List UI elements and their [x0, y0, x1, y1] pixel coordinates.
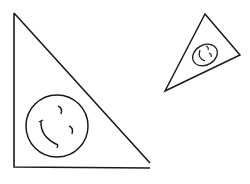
background [0, 0, 250, 184]
diagram-canvas [0, 0, 250, 184]
